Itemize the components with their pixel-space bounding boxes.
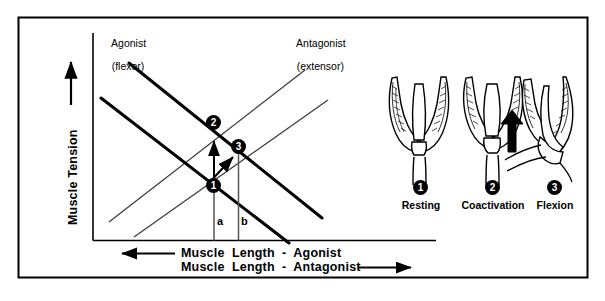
- antagonist-label-line2: (extensor): [297, 60, 344, 72]
- x-axis-label-agonist: Muscle Length - Agonist: [181, 246, 341, 260]
- agonist-label-line2: (flexor): [112, 60, 145, 72]
- graph-marker-1: 1: [206, 178, 221, 193]
- stage-marker-1: 1: [413, 180, 428, 195]
- y-axis-label: Muscle Tension: [66, 129, 80, 225]
- agonist-curve-label: Agonist (flexor): [100, 26, 146, 85]
- drop-line-label-b: b: [241, 215, 248, 227]
- antagonist-label-line1: Antagonist: [296, 37, 346, 49]
- antagonist-curve-label: Antagonist (extensor): [285, 26, 346, 85]
- drop-line-label-a: a: [217, 215, 223, 227]
- graph-marker-2: 2: [206, 115, 221, 130]
- graph-marker-3: 3: [231, 139, 246, 154]
- agonist-label-line1: Agonist: [111, 37, 146, 49]
- figure-root: Muscle Tension Agonist (flexor) Antagoni…: [0, 0, 605, 301]
- x-axis-label-antagonist: Muscle Length - Antagonist: [181, 260, 361, 274]
- stage-marker-2: 2: [485, 180, 500, 195]
- stage-marker-3: 3: [547, 180, 562, 195]
- stage-caption-flexion: Flexion: [515, 199, 595, 211]
